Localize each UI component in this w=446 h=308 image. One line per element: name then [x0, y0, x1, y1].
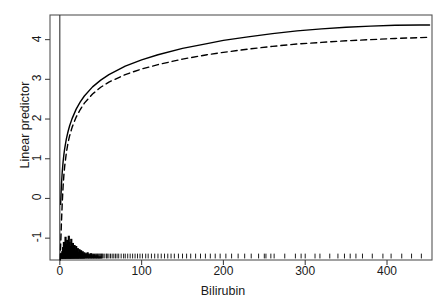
x-tick-label-1: 100 [132, 264, 152, 278]
y-tick-label-2: 1 [30, 143, 44, 173]
chart-figure: Bilirubin Linear predictor 0100200300400… [0, 0, 446, 308]
x-axis-title: Bilirubin [0, 284, 446, 298]
spike-bar [100, 256, 102, 258]
plot-canvas [0, 0, 446, 308]
y-tick-label-4: 3 [30, 63, 44, 93]
x-tick-label-3: 300 [295, 264, 315, 278]
x-tick-label-2: 200 [213, 264, 233, 278]
y-tick-label-3: 2 [30, 103, 44, 133]
y-tick-label-1: 0 [30, 182, 44, 212]
x-tick-label-0: 0 [56, 264, 63, 278]
rug-plot [61, 254, 422, 259]
series-solid-curve [61, 25, 430, 204]
y-tick-label-0: -1 [30, 222, 44, 252]
y-tick-label-5: 4 [30, 24, 44, 54]
plot-box-border [50, 15, 432, 260]
x-tick-label-4: 400 [377, 264, 397, 278]
